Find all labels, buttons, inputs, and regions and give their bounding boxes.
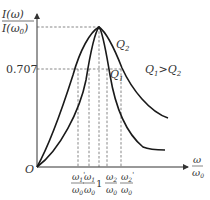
svg-text:ω0: ω0 [121,185,132,196]
svg-text:ω0: ω0 [84,185,95,196]
x-label-denominator: ω0 [192,167,204,179]
y-tick-0707: 0.707 [6,63,38,76]
svg-text:ω2: ω2 [106,172,117,183]
x-tick-w2prime: ω2' ω0 [120,171,134,196]
svg-text:ω2': ω2' [121,171,134,183]
resonance-chart: I(ω) I(ω0) 0.707 O Q2 Q1 Q1>Q2 ω ω0 ω1' … [0,0,210,200]
x-tick-one: 1 [96,178,102,189]
x-tick-w2: ω2 ω0 [105,172,117,196]
svg-text:ω0: ω0 [72,185,83,196]
svg-text:ω0: ω0 [106,185,117,196]
y-label-numerator: I(ω) [1,8,24,21]
x-label-numerator: ω [193,154,201,165]
y-label-denominator: I(ω0) [1,22,28,36]
svg-text:ω1: ω1 [84,172,95,183]
x-tick-w1: ω1 ω0 [83,172,95,196]
curve-q1 [37,27,165,167]
q2-label: Q2 [116,38,130,53]
origin-label: O [25,163,34,176]
q1-label: Q1 [110,68,124,83]
q-relation-label: Q1>Q2 [145,63,182,78]
